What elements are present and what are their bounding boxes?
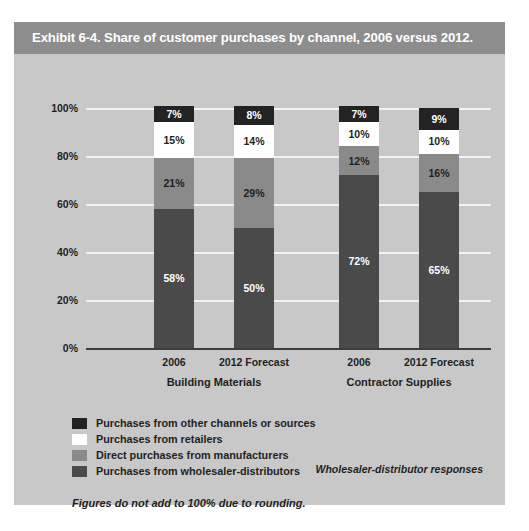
bar-segment-value-label: 10%: [428, 136, 449, 147]
bar-segment: 72%: [339, 175, 379, 348]
responses-note: Wholesaler-distributor responses: [316, 463, 483, 475]
bar-segment-value-label: 9%: [431, 114, 446, 125]
bar-segment: 7%: [339, 106, 379, 123]
legend-label: Purchases from wholesaler-distributors: [96, 466, 300, 477]
bar-segment: 65%: [419, 192, 459, 348]
legend-item: Direct purchases from manufacturers: [72, 448, 316, 463]
legend-item: Purchases from other channels or sources: [72, 416, 316, 431]
x-axis-tick-label: 2012 Forecast: [389, 356, 489, 368]
y-axis-tick-label: 80%: [18, 151, 78, 162]
y-axis-tick-label: 20%: [18, 295, 78, 306]
chart-axis-region: 7%15%21%58%8%14%29%50%7%10%12%72%9%10%16…: [86, 108, 491, 348]
x-axis-group-label: Building Materials: [134, 376, 294, 388]
bar-segment-value-label: 10%: [348, 129, 369, 140]
exhibit-title: Exhibit 6-4. Share of customer purchases…: [32, 30, 473, 45]
bar-segment: 9%: [419, 108, 459, 130]
bar-segment-value-label: 7%: [351, 109, 366, 120]
y-axis-tick-label: 40%: [18, 247, 78, 258]
legend-swatch: [72, 418, 87, 429]
bar-segment: 15%: [154, 122, 194, 158]
legend-swatch: [72, 450, 87, 461]
legend-label: Purchases from retailers: [96, 434, 223, 445]
x-axis-tick-label: 2012 Forecast: [204, 356, 304, 368]
stacked-bar: 7%10%12%72%: [339, 106, 379, 348]
stacked-bar: 8%14%29%50%: [234, 106, 274, 348]
y-axis-tick-label: 0%: [18, 343, 78, 354]
exhibit-panel: Exhibit 6-4. Share of customer purchases…: [14, 22, 505, 505]
bar-segment: 12%: [339, 146, 379, 175]
bar-segment-value-label: 12%: [348, 156, 369, 167]
bar-segment-value-label: 7%: [166, 109, 181, 120]
legend-label: Direct purchases from manufacturers: [96, 450, 289, 461]
bar-segment: 7%: [154, 106, 194, 123]
bar-segment: 21%: [154, 158, 194, 208]
bar-segment: 10%: [419, 130, 459, 154]
chart-legend: Purchases from other channels or sources…: [72, 416, 316, 480]
bar-segment-value-label: 29%: [243, 188, 264, 199]
bar-segment: 50%: [234, 228, 274, 348]
bar-segment: 29%: [234, 158, 274, 228]
bar-segment-value-label: 15%: [163, 135, 184, 146]
bar-segment-value-label: 65%: [428, 265, 449, 276]
bar-segment: 10%: [339, 122, 379, 146]
bar-segment-value-label: 58%: [163, 273, 184, 284]
chart-plot-area: 100%80%60%40%20%0% 7%15%21%58%8%14%29%50…: [14, 54, 505, 505]
bar-segment: 58%: [154, 209, 194, 348]
stacked-bar: 7%15%21%58%: [154, 106, 194, 348]
bar-segment-value-label: 16%: [428, 168, 449, 179]
bar-segment: 14%: [234, 125, 274, 159]
y-axis-tick-label: 60%: [18, 199, 78, 210]
bar-segment-value-label: 14%: [243, 136, 264, 147]
legend-item: Purchases from retailers: [72, 432, 316, 447]
chart-footnote: Figures do not add to 100% due to roundi…: [72, 497, 305, 509]
bar-segment-value-label: 21%: [163, 178, 184, 189]
legend-swatch: [72, 466, 87, 477]
bar-segment-value-label: 50%: [243, 283, 264, 294]
bar-segment-value-label: 72%: [348, 256, 369, 267]
bar-segment-value-label: 8%: [246, 110, 261, 121]
legend-swatch: [72, 434, 87, 445]
legend-item: Purchases from wholesaler-distributors: [72, 464, 316, 479]
stacked-bar: 9%10%16%65%: [419, 108, 459, 348]
bar-segment: 16%: [419, 154, 459, 192]
y-axis-tick-label: 100%: [18, 103, 78, 114]
legend-label: Purchases from other channels or sources: [96, 418, 316, 429]
bar-segment: 8%: [234, 106, 274, 125]
x-axis-line: [86, 348, 491, 350]
exhibit-title-bar: Exhibit 6-4. Share of customer purchases…: [14, 22, 505, 54]
x-axis-group-label: Contractor Supplies: [319, 376, 479, 388]
